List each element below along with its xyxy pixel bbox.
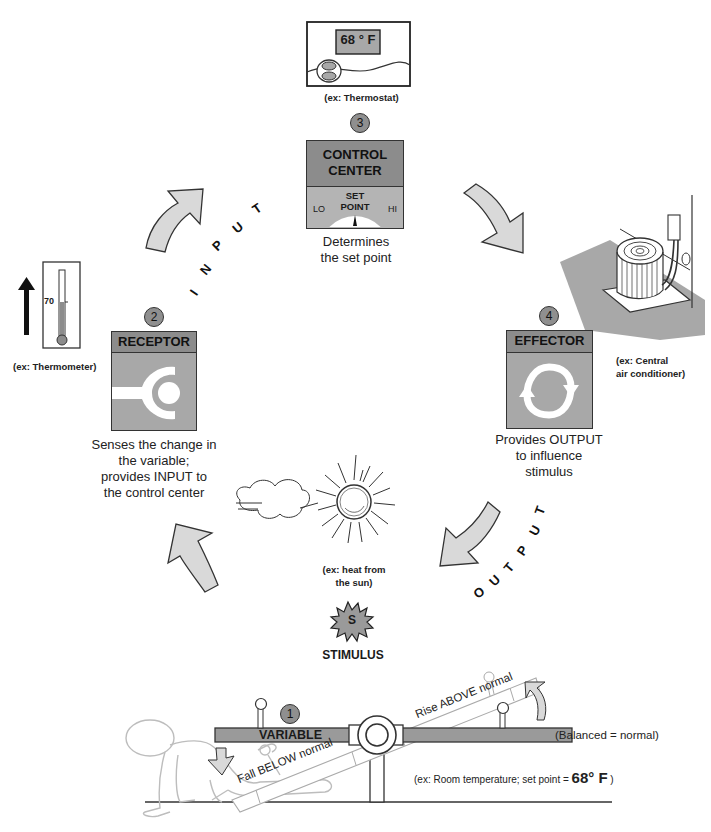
sun-caption: (ex: heat from the sun) <box>308 563 400 589</box>
effector-box: EFFECTOR <box>506 330 593 429</box>
variable-example: (ex: Room temperature; set point = 68° F… <box>414 769 614 786</box>
effector-desc-line2: to influence <box>484 448 614 464</box>
control-center-box: CONTROL CENTER SET POINT LO HI <box>306 140 404 229</box>
control-center-title-line2: CENTER <box>307 163 403 179</box>
stimulus-badge: S <box>344 613 360 627</box>
input-arrow-icon <box>146 189 203 252</box>
variable-example-prefix: (ex: Room temperature; set point = <box>414 774 572 785</box>
receptor-box: RECEPTOR <box>111 331 197 431</box>
control-desc-line2: the set point <box>286 250 426 266</box>
ac-caption-line1: (ex: Central <box>616 354 685 367</box>
lo-label: LO <box>313 204 325 214</box>
air-conditioner-caption: (ex: Central air conditioner) <box>616 354 685 380</box>
gauge-needle-icon <box>353 215 357 226</box>
refresh-cycle-icon <box>507 353 591 427</box>
down-arrow-icon <box>208 748 234 775</box>
control-center-title-line1: CONTROL <box>307 147 403 163</box>
control-center-header: CONTROL CENTER <box>307 141 403 187</box>
thermometer-reading: 70 <box>44 296 54 306</box>
up-arrow-icon <box>18 277 35 335</box>
receptor-description: Senses the change in the variable; provi… <box>56 437 252 501</box>
sun-caption-line1: (ex: heat from <box>308 563 400 576</box>
receptor-symbol-icon <box>112 353 195 429</box>
effector-description: Provides OUTPUT to influence stimulus <box>484 432 614 480</box>
curved-up-arrow-icon <box>525 682 546 720</box>
step-number-3: 3 <box>350 113 370 133</box>
variable-title: VARIABLE <box>259 728 322 742</box>
effector-desc-line1: Provides OUTPUT <box>484 432 614 448</box>
set-point-value: 68° F <box>572 769 608 786</box>
ac-caption-line2: air conditioner) <box>616 367 685 380</box>
receptor-header: RECEPTOR <box>112 332 196 353</box>
hi-label: HI <box>388 204 397 214</box>
step-number-2: 2 <box>144 307 164 327</box>
arrow-to-receptor-icon <box>168 524 218 592</box>
set-point-gauge: SET POINT LO HI <box>307 187 403 227</box>
receptor-desc-line1: Senses the change in <box>56 437 252 453</box>
receptor-desc-line2: the variable; <box>56 453 252 469</box>
effector-header: EFFECTOR <box>507 331 592 353</box>
air-conditioner-icon <box>560 195 705 340</box>
sun-caption-line2: the sun) <box>308 576 400 589</box>
step-number-1: 1 <box>280 704 300 724</box>
variable-example-suffix: ) <box>608 774 614 785</box>
set-point-line1: SET <box>307 190 403 201</box>
control-desc-line1: Determines <box>286 234 426 250</box>
control-center-description: Determines the set point <box>286 234 426 266</box>
effector-desc-line3: stimulus <box>484 464 614 480</box>
thermostat-display: 68 ° F <box>336 32 380 47</box>
balanced-label: (Balanced = normal) <box>555 729 659 741</box>
thermostat-caption: (ex: Thermostat) <box>314 92 409 103</box>
output-arrow-icon <box>440 502 500 566</box>
receptor-desc-line4: the control center <box>56 485 252 501</box>
sun-icon <box>316 455 395 543</box>
stimulus-label: STIMULUS <box>310 648 396 662</box>
receptor-desc-line3: provides INPUT to <box>56 469 252 485</box>
thermometer-caption: (ex: Thermometer) <box>13 361 96 372</box>
arrow-to-effector-icon <box>464 184 523 253</box>
step-number-4: 4 <box>539 306 559 326</box>
